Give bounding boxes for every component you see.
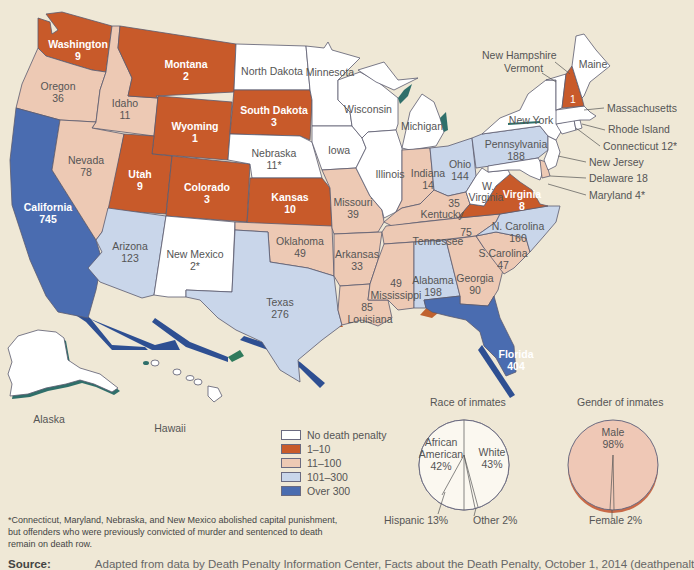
callout-vermont: Vermont (504, 62, 543, 74)
source-line: Source:Adapted from data by Death Penalt… (8, 558, 694, 570)
label-montana: Montana (164, 58, 207, 70)
white-line-2: 43% (472, 458, 512, 470)
label-arkansas: Arkansas (335, 248, 379, 260)
legend-swatch (281, 444, 301, 454)
value-southdakota: 3 (271, 116, 277, 128)
value-idaho: 11 (120, 109, 131, 121)
value-scarolina: 47 (497, 259, 509, 271)
label-tennessee: Tennessee (413, 235, 464, 247)
label-arizona: Arizona (112, 240, 148, 252)
legend-label: 101–300 (307, 471, 348, 483)
label-pennsylvania: Pennsylvania (485, 138, 548, 150)
value-utah: 9 (137, 180, 143, 192)
gender-pie-female-label: Female 2% (589, 514, 642, 526)
callout-rhodeisland: Rhode Island (608, 123, 670, 135)
value-montana: 2 (183, 70, 189, 82)
label-michigan: Michigan (401, 120, 443, 132)
value-nevada: 78 (80, 166, 92, 178)
aa-line-3: 42% (418, 460, 464, 472)
label-illinois: Illinois (375, 168, 404, 180)
label-newmexico: New Mexico (166, 248, 223, 260)
male-line-2: 98% (596, 438, 630, 450)
footnote: *Connecticut, Maryland, Nebraska, and Ne… (8, 514, 348, 550)
value-nebraska: 11* (267, 159, 282, 171)
callout-newhampshire: New Hampshire (482, 49, 557, 61)
callout-maryland: Maryland 4* (589, 189, 645, 201)
legend-item-11-100: 11–100 (281, 456, 386, 470)
legend-item-none: No death penalty (281, 428, 386, 442)
gender-pie-male-label: Male 98% (596, 426, 630, 450)
aa-line-1: African (418, 436, 464, 448)
state-hawaii (143, 360, 222, 402)
value-washington: 9 (75, 50, 81, 62)
value-arkansas: 33 (351, 260, 363, 272)
value-missouri: 39 (347, 208, 359, 220)
label-southdakota: South Dakota (240, 104, 308, 116)
label-nevada: Nevada (68, 154, 104, 166)
label-kansas: Kansas (271, 191, 309, 203)
label-iowa: Iowa (328, 144, 350, 156)
value-california: 745 (39, 213, 57, 225)
value-pennsylvania: 188 (507, 150, 525, 162)
gender-pie-title: Gender of inmates (577, 396, 663, 408)
label-minnesota: Minnesota (306, 66, 355, 78)
label-indiana: Indiana (411, 167, 446, 179)
value-louisiana: 85 (361, 301, 373, 313)
value-oregon: 36 (52, 92, 64, 104)
callout-connecticut: Connecticut 12* (603, 140, 677, 152)
label-mississippi: Mississippi (371, 289, 422, 301)
state-florida (424, 296, 516, 376)
value-kansas: 10 (284, 203, 296, 215)
label-texas: Texas (266, 296, 293, 308)
label-wyoming: Wyoming (171, 120, 218, 132)
label-ohio: Ohio (449, 158, 471, 170)
label-newyork: New York (509, 114, 554, 126)
label-idaho: Idaho (112, 97, 138, 109)
label-oklahoma: Oklahoma (276, 235, 324, 247)
race-pie-african-american-label: African American 42% (418, 436, 464, 472)
value-ncarolina: 160 (509, 232, 527, 244)
value-colorado: 3 (204, 193, 210, 205)
legend-item-101-300: 101–300 (281, 470, 386, 484)
value-alabama: 198 (424, 286, 442, 298)
race-pie-hispanic-label: Hispanic 13% (384, 514, 448, 526)
legend-swatch (281, 486, 301, 496)
male-line-1: Male (596, 426, 630, 438)
value-georgia: 90 (469, 284, 481, 296)
legend-item-1-10: 1–10 (281, 442, 386, 456)
label-kentucky: Kentucky (420, 208, 464, 220)
label-nebraska: Nebraska (252, 147, 297, 159)
source-label: Source: (8, 558, 51, 570)
label-alabama: Alabama (412, 274, 454, 286)
label-wisconsin: Wisconsin (344, 103, 392, 115)
legend-label: No death penalty (307, 429, 386, 441)
label-maine: Maine (579, 58, 608, 70)
value-newhampshire: 1 (570, 93, 576, 105)
label-colorado: Colorado (184, 181, 230, 193)
value-ohio: 144 (451, 170, 469, 182)
legend-item-over-300: Over 300 (281, 484, 386, 498)
legend-swatch (281, 430, 301, 440)
callout-delaware: Delaware 18 (589, 172, 648, 184)
label-virginia: Virginia (503, 188, 541, 200)
legend-label: Over 300 (307, 485, 350, 497)
legend-label: 11–100 (307, 457, 341, 469)
label-utah: Utah (128, 168, 151, 180)
legend-label: 1–10 (307, 443, 330, 455)
aa-line-2: American (418, 448, 464, 460)
label-washington: Washington (48, 38, 108, 50)
label-louisiana: Louisiana (348, 313, 393, 325)
label-ncarolina: N. Carolina (492, 220, 545, 232)
label-florida: Florida (498, 348, 533, 360)
label-alaska: Alaska (33, 413, 65, 425)
value-indiana: 14 (422, 179, 434, 191)
callout-massachusetts: Massachusetts (607, 102, 677, 114)
value-arizona: 123 (121, 252, 139, 264)
value-mississippi: 49 (390, 277, 402, 289)
value-texas: 276 (271, 308, 289, 320)
callout-newjersey: New Jersey (589, 156, 645, 168)
race-pie-title: Race of inmates (430, 396, 506, 408)
label-california: California (24, 201, 73, 213)
race-pie-white-label: White 43% (472, 446, 512, 470)
label-oregon: Oregon (40, 80, 75, 92)
